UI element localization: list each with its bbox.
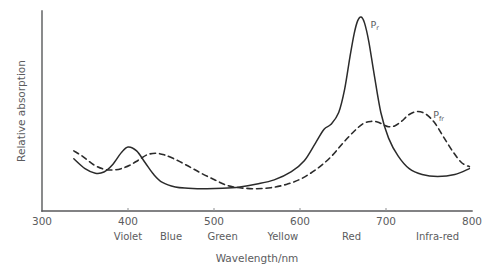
band-label-yellow: Yellow [266, 231, 298, 242]
x-tick-label-700: 700 [376, 215, 396, 227]
x-tick-label-600: 600 [290, 215, 310, 227]
band-label-violet: Violet [114, 231, 142, 242]
band-label-infra-red: Infra-red [416, 231, 459, 242]
band-label-green: Green [207, 231, 237, 242]
curve-label-pfr: Pfr [433, 109, 444, 123]
y-axis-title: Relative absorption [15, 60, 27, 162]
band-label-red: Red [342, 231, 361, 242]
curve-label-subscript-fr: fr [439, 115, 444, 123]
colour-band-labels: VioletBlueGreenYellowRedInfra-red [114, 231, 459, 242]
band-label-blue: Blue [160, 231, 182, 242]
x-axis-tick-labels: 300400500600700800 [32, 215, 482, 227]
x-tick-label-400: 400 [118, 215, 138, 227]
curve-annotations: PrPfr [371, 19, 445, 123]
x-tick-label-800: 800 [462, 215, 482, 227]
curve-label-subscript-r: r [376, 24, 379, 32]
curve-label-pr: Pr [371, 19, 380, 33]
x-tick-label-300: 300 [32, 215, 52, 227]
absorption-spectrum-chart: 300400500600700800 VioletBlueGreenYellow… [0, 0, 497, 274]
curve-pfr-dashed [74, 112, 470, 189]
x-axis-title: Wavelength/nm [216, 252, 299, 264]
x-tick-label-500: 500 [204, 215, 224, 227]
